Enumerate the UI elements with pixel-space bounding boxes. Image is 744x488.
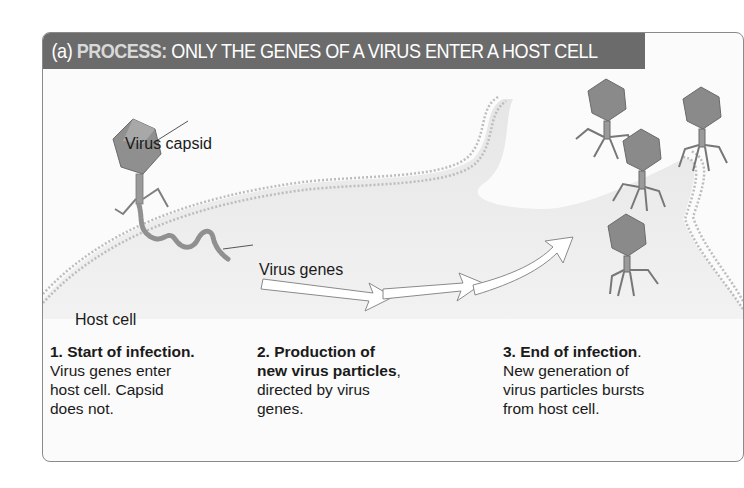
virus-attached [113, 119, 168, 214]
step-1-block: 1. Start of infection. Virus genes enter… [50, 342, 195, 418]
capsid-label: Virus capsid [125, 135, 212, 153]
step-1-line3: does not. [50, 399, 195, 418]
step-2-line3: genes. [257, 399, 401, 418]
step-3-period: . [637, 343, 641, 360]
step-1-line2: host cell. Capsid [50, 380, 195, 399]
host-cell-label: Host cell [75, 311, 136, 329]
part-label: (a) [52, 39, 73, 62]
genes-label: Virus genes [259, 261, 343, 279]
step-3-title: 3. End of infection [503, 343, 637, 360]
step-2-block: 2. Production of new virus particles, di… [257, 342, 401, 418]
step-2-comma: , [397, 362, 401, 379]
figure-header: (a) PROCESS: ONLY THE GENES OF A VIRUS E… [43, 33, 645, 69]
step-1-title: 1. Start of infection. [50, 343, 195, 360]
step-3-line2: virus particles bursts [503, 380, 644, 399]
figure-title: ONLY THE GENES OF A VIRUS ENTER A HOST C… [171, 39, 597, 62]
step-1-line1: Virus genes enter [50, 361, 195, 380]
step-3-line3: from host cell. [503, 399, 644, 418]
step-2-bold-rest: new virus particles [257, 362, 397, 379]
process-label: PROCESS: [77, 39, 167, 62]
step-3-block: 3. End of infection. New generation of v… [503, 342, 644, 418]
step-2-title: 2. Production of [257, 343, 375, 360]
step-3-line1: New generation of [503, 361, 644, 380]
infection-diagram [43, 69, 743, 319]
step-2-line2: directed by virus [257, 380, 401, 399]
